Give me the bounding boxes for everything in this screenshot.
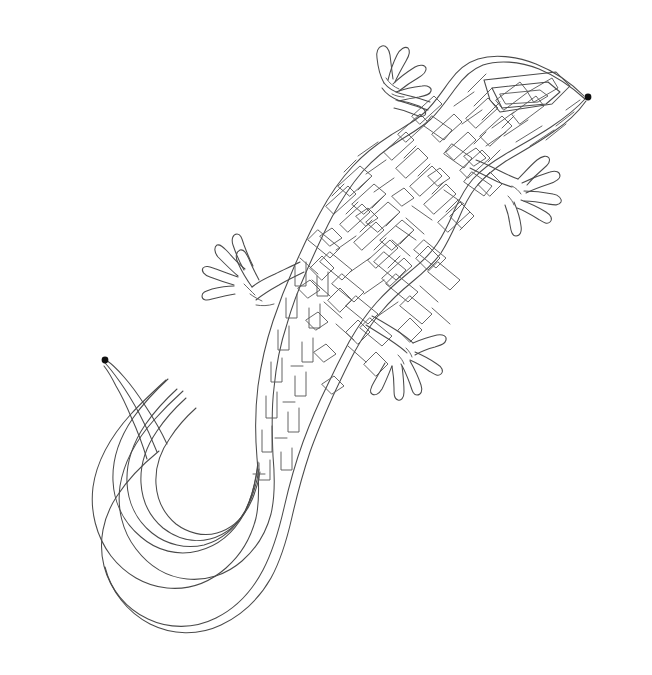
maze-canvas: Lizard Maze [0,0,652,675]
start-marker-dot[interactable] [585,94,592,101]
end-marker-dot[interactable] [102,357,109,364]
lizard-maze-drawing [0,0,652,675]
